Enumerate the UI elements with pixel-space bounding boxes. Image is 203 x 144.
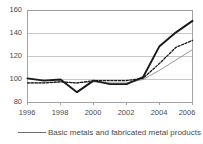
legend: Basic metals and fabricated metal produc… [18,125,203,139]
gridlines [28,11,193,80]
legend-label-basic-metals: Basic metals and fabricated metal produc… [48,128,201,137]
plot-area [0,0,203,144]
line-chart: 160 140 120 100 80 1996 1998 2000 2002 2… [0,0,203,144]
legend-swatch-solid-line-icon [18,132,46,133]
